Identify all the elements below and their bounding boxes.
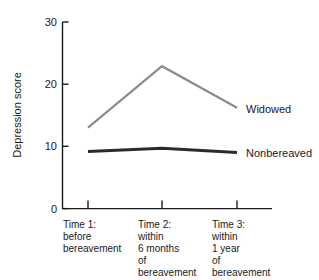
- category-label-time-2-line-0: Time 2:: [138, 219, 171, 230]
- chart-canvas: 0 10 20 30 Depression score Widowed Nonb…: [0, 0, 319, 280]
- depression-score-line-chart: 0 10 20 30 Depression score Widowed Nonb…: [0, 0, 319, 280]
- y-tick-label-10: 10: [45, 140, 57, 152]
- y-tick-label-30: 30: [45, 16, 57, 28]
- category-label-time-3-line-3: of: [212, 255, 221, 266]
- series-line-nonbereaved: [88, 148, 237, 152]
- y-tick-label-0: 0: [51, 203, 57, 215]
- category-label-time-2-line-3: of: [138, 255, 147, 266]
- category-label-time-2: Time 2: within 6 months of bereavement: [137, 219, 197, 278]
- category-label-time-1-line-0: Time 1:: [63, 219, 96, 230]
- category-label-time-3: Time 3: within 1 year of bereavement: [211, 219, 271, 278]
- series-label-nonbereaved: Nonbereaved: [246, 147, 312, 159]
- series-line-widowed: [88, 66, 237, 128]
- category-label-time-3-line-1: within: [211, 231, 238, 242]
- category-label-time-2-line-2: 6 months: [138, 243, 179, 254]
- category-label-time-3-line-0: Time 3:: [212, 219, 245, 230]
- y-axis-title: Depression score: [11, 72, 23, 158]
- category-label-time-2-line-4: bereavement: [138, 267, 197, 278]
- y-tick-label-20: 20: [45, 78, 57, 90]
- category-label-time-2-line-1: within: [137, 231, 164, 242]
- series-label-widowed: Widowed: [246, 103, 291, 115]
- category-label-time-3-line-4: bereavement: [212, 267, 271, 278]
- category-label-time-1: Time 1: before bereavement: [63, 219, 122, 254]
- category-label-time-1-line-2: bereavement: [63, 243, 122, 254]
- category-label-time-1-line-1: before: [63, 231, 92, 242]
- category-label-time-3-line-2: 1 year: [212, 243, 240, 254]
